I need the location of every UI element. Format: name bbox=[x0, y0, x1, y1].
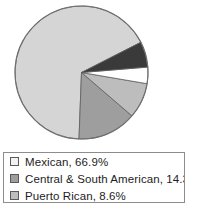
legend-swatch-central-south-american bbox=[10, 174, 19, 183]
legend-label-central-south-american: Central & South American, 14.3% bbox=[25, 173, 185, 185]
legend-swatch-mexican bbox=[10, 157, 19, 166]
chart-legend: Mexican, 66.9% Central & South American,… bbox=[3, 152, 185, 203]
legend-label-puerto-rican: Puerto Rican, 8.6% bbox=[25, 190, 126, 202]
chart-canvas: Mexican, 66.9% Central & South American,… bbox=[0, 0, 213, 204]
legend-item-central-south-american: Central & South American, 14.3% bbox=[4, 170, 184, 187]
pie-slice-group bbox=[15, 6, 148, 139]
pie-chart-svg bbox=[12, 3, 151, 142]
legend-label-mexican: Mexican, 66.9% bbox=[25, 156, 108, 168]
legend-swatch-puerto-rican bbox=[10, 191, 19, 200]
legend-item-mexican: Mexican, 66.9% bbox=[4, 153, 184, 170]
pie-chart bbox=[12, 3, 151, 142]
legend-item-puerto-rican: Puerto Rican, 8.6% bbox=[4, 187, 184, 203]
